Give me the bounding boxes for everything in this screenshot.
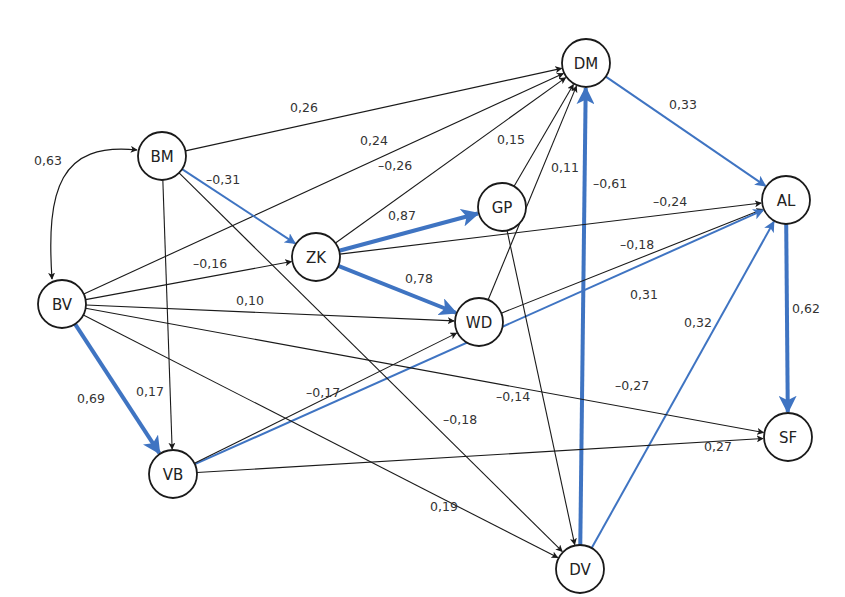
node-sf: SF [764,413,812,461]
node-label: ZK [306,249,327,267]
edge-label: 0,11 [551,160,579,175]
edge-label: 0,27 [704,439,732,454]
edge-label: –0,14 [496,389,530,404]
edge-label: 0,33 [669,97,697,112]
edge-bv-sf [86,308,764,432]
edge-label: 0,15 [497,132,525,147]
edge-label: –0,27 [615,378,649,393]
node-label: VB [163,466,184,484]
node-bv: BV [38,280,86,328]
edge-al-sf [786,224,788,412]
edge-dv-dm [580,88,585,545]
edge-vb-sf [197,439,763,473]
edge-label: 0,24 [360,133,388,148]
correlation-arc [51,149,137,279]
node-gp: GP [478,183,526,231]
edge-label: 0,69 [77,391,105,406]
node-label: BV [52,296,73,314]
node-label: SF [779,429,797,447]
edge-label: –0,17 [306,385,340,400]
edge-label: 0,78 [405,271,433,286]
edge-label: 0,10 [236,293,264,308]
edge-label: –0,24 [653,194,687,209]
node-dm: DM [562,39,610,87]
edge-label: –0,26 [378,158,412,173]
edge-zk-wd [338,266,455,313]
correlation-label: 0,63 [34,153,62,168]
edge-dm-al [606,77,766,186]
node-vb: VB [149,450,197,498]
path-diagram: 0,260,24–0,260,150,11–0,61–0,31–0,160,87… [0,0,845,597]
node-dv: DV [556,545,604,593]
edge-label: –0,31 [206,172,240,187]
node-label: WD [466,314,492,332]
node-bm: BM [138,132,186,180]
node-label: GP [492,199,513,217]
node-zk: ZK [292,233,340,281]
edge-label: –0,18 [443,412,477,427]
edge-label: 0,62 [792,301,820,316]
edge-bm-vb [163,180,172,449]
edge-label: 0,19 [430,499,458,514]
edge-label: 0,17 [136,384,164,399]
edge-label: 0,32 [684,315,712,330]
node-wd: WD [455,298,503,346]
edge-zk-dm [335,78,565,243]
node-al: AL [762,176,810,224]
edge-label: –0,16 [193,256,227,271]
edge-label: 0,31 [630,287,658,302]
edge-label: 0,26 [290,100,318,115]
node-label: DM [574,55,599,73]
edge-label: –0,61 [593,176,627,191]
node-label: DV [569,561,591,579]
edge-label: –0,18 [620,237,654,252]
edge-label: 0,87 [388,208,416,223]
correlation-bv-bm [51,149,137,279]
node-label: AL [777,192,796,210]
node-label: BM [150,148,173,166]
